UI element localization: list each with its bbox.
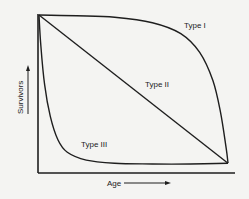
curves [39, 15, 228, 164]
annotation-type-ii: Type II [145, 80, 169, 89]
x-axis-arrow [124, 181, 171, 185]
y-axis-arrow [26, 65, 30, 114]
y-axis-label: Survivors [16, 81, 25, 114]
x-axis-label: Age [107, 179, 122, 188]
annotation-type-iii: Type III [81, 140, 107, 149]
survivorship-chart: Type I Type II Type III Survivors Age [0, 0, 249, 199]
annotation-type-i: Type I [184, 21, 206, 30]
curve-type-ii [39, 15, 228, 163]
